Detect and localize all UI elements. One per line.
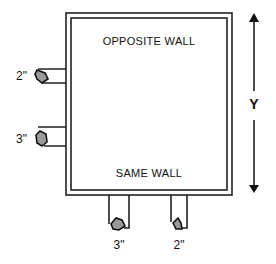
bottom-connection-3in: 3" <box>109 195 129 252</box>
piping-diagram: OPPOSITE WALL SAME WALL 2" 3" 3" 2" Y <box>0 0 276 264</box>
same-wall-label: SAME WALL <box>116 167 182 179</box>
arrow-up-icon <box>249 13 259 22</box>
y-axis-label: Y <box>249 96 259 112</box>
side-size-label: 2" <box>16 69 27 83</box>
opposite-wall-label: OPPOSITE WALL <box>103 35 196 47</box>
side-size-label: 3" <box>16 132 27 146</box>
valve-icon <box>36 131 47 146</box>
arrow-down-icon <box>249 185 259 193</box>
bottom-connection-2in: 2" <box>171 195 187 252</box>
valve-icon <box>35 70 48 83</box>
bottom-size-label: 3" <box>114 238 125 252</box>
side-connection-2in: 2" <box>16 69 66 83</box>
valve-icon <box>111 218 125 230</box>
bottom-size-label: 2" <box>174 238 185 252</box>
side-connection-3in: 3" <box>16 127 66 146</box>
valve-icon <box>173 218 182 229</box>
y-dimension: Y <box>249 13 259 193</box>
